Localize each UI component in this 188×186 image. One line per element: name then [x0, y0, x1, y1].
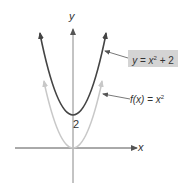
leader-line-base [103, 94, 130, 99]
y-axis-label: y [69, 10, 75, 22]
x-axis-label: x [138, 141, 144, 153]
intercept-label: 2 [73, 118, 79, 130]
eq1-eq: = [137, 55, 148, 66]
eq2-exp: 2 [161, 94, 164, 100]
leader-line-shifted [105, 51, 128, 58]
eq2-eq: = [144, 94, 155, 105]
base-parabola-equation: f(x) = x2 [130, 94, 164, 105]
eq2-lhs: f(x) [130, 94, 144, 105]
eq1-rest: + 2 [157, 55, 174, 66]
shifted-parabola-equation: y = x2 + 2 [128, 50, 178, 67]
function-graph [0, 0, 188, 186]
